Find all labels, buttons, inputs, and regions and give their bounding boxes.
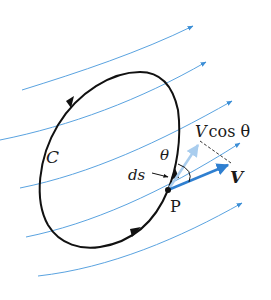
circulation-diagram: C P θ ds Vcos θ V [0, 0, 271, 300]
streamlines [0, 26, 242, 276]
ds-pointer [152, 173, 168, 177]
curve-arrow-bottom [130, 227, 141, 237]
point-p-dot [165, 187, 171, 193]
velocity-label: V [230, 167, 245, 187]
streamline-5 [38, 203, 242, 276]
curve-label: C [46, 147, 59, 167]
v-cos-theta-label: Vcos θ [195, 122, 250, 141]
theta-label: θ [160, 146, 169, 164]
streamline-3 [20, 101, 232, 188]
ds-label: ds [128, 166, 146, 184]
v-cos-rest: cos θ [209, 122, 251, 141]
point-label: P [170, 197, 181, 216]
curve-c [40, 72, 180, 248]
v-cos-v: V [195, 122, 208, 141]
